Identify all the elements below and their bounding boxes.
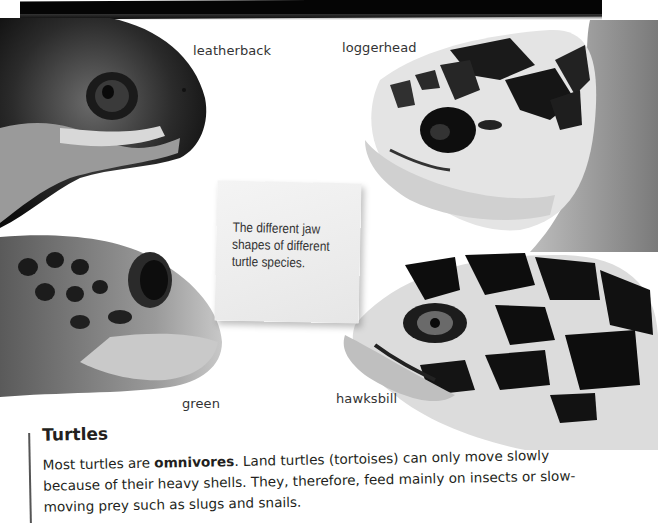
- green-head-image: [0, 232, 225, 397]
- paragraph-text-start: Most turtles are: [43, 455, 155, 473]
- label-hawksbill: hawksbill: [336, 391, 397, 406]
- label-loggerhead: loggerhead: [342, 40, 417, 55]
- caption-note-card: The different jaw shapes of different tu…: [215, 181, 362, 324]
- hawksbill-head-image: [335, 245, 658, 450]
- section-left-rule: [28, 433, 31, 523]
- figure-caption: The different jaw shapes of different tu…: [232, 219, 339, 272]
- term-omnivores: omnivores: [154, 453, 234, 471]
- section-paragraph: Most turtles are omnivores. Land turtles…: [43, 444, 604, 518]
- leatherback-head-image: [0, 18, 215, 233]
- label-green: green: [182, 396, 220, 411]
- label-leatherback: leatherback: [193, 43, 271, 58]
- section-heading: Turtles: [42, 423, 108, 444]
